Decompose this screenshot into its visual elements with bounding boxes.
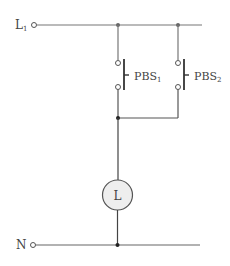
switch-1-label: PBS1 [134, 70, 162, 84]
neutral-terminal [31, 243, 36, 248]
circuit-diagram: L1 PBS1 PBS2 L N [0, 0, 230, 266]
line-terminal [32, 23, 37, 28]
line-terminal-label: L1 [15, 18, 27, 33]
neutral-terminal-label: N [16, 238, 27, 252]
switch-2-label: PBS2 [194, 70, 222, 84]
lamp-label: L [114, 189, 122, 203]
push-button-switch-2 [176, 25, 190, 118]
push-button-switch-1 [116, 25, 130, 118]
junction-dot [116, 243, 120, 247]
